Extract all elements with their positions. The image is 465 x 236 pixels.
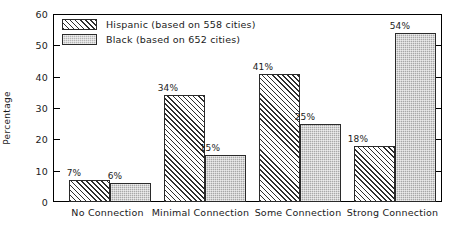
chart-legend: Hispanic (based on 558 cities) Black (ba… [62,18,256,48]
legend-item-black[interactable]: Black (based on 652 cities) [62,33,256,46]
legend-swatch-hispanic-icon [62,19,97,30]
y-axis-title: Percentage [2,78,12,158]
y-tick-label-60: 60 [18,9,48,20]
x-axis-label-some-connection: Some Connection [248,207,348,218]
y-tick-label-40: 40 [18,72,48,83]
bar-black-minimal-connection[interactable] [205,155,246,202]
y-tick-label-0: 0 [18,197,48,208]
legend-label-hispanic: Hispanic (based on 558 cities) [106,19,256,30]
x-axis-label-no-connection: No Connection [60,207,155,218]
legend-swatch-black-icon [62,34,97,45]
bar-black-strong-connection[interactable] [395,33,436,202]
bar-hispanic-some-connection[interactable] [259,74,300,202]
x-axis-label-minimal-connection: Minimal Connection [148,207,253,218]
legend-item-hispanic[interactable]: Hispanic (based on 558 cities) [62,18,256,31]
bar-value-hispanic-strong-connection: 18% [342,134,374,144]
bar-value-hispanic-some-connection: 41% [247,62,279,72]
bar-value-hispanic-minimal-connection: 34% [152,83,184,93]
legend-label-black: Black (based on 652 cities) [106,34,240,45]
x-axis-label-strong-connection: Strong Connection [340,207,445,218]
bar-value-hispanic-no-connection: 7% [59,168,89,178]
bar-black-no-connection[interactable] [110,183,151,202]
bar-black-some-connection[interactable] [300,124,341,202]
bar-value-black-strong-connection: 54% [384,21,416,31]
y-tick-label-10: 10 [18,166,48,177]
bar-chart: Percentage 60 50 40 30 20 10 0 7% 6% 34%… [0,0,465,236]
bar-value-black-no-connection: 6% [100,171,130,181]
y-tick-label-20: 20 [18,134,48,145]
y-tick-label-50: 50 [18,40,48,51]
y-tick-label-30: 30 [18,103,48,114]
bar-hispanic-strong-connection[interactable] [354,146,395,202]
bar-hispanic-no-connection[interactable] [69,180,110,202]
bar-value-black-minimal-connection: 15% [194,143,226,153]
bar-value-black-some-connection: 25% [289,112,321,122]
